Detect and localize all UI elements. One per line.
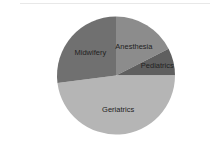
slice-label-midwifery: Midwifery: [74, 48, 106, 57]
slice-label-anesthesia: Anesthesia: [115, 42, 153, 51]
slice-label-geriatrics: Geriatrics: [102, 105, 134, 114]
pie-slices: [57, 17, 175, 135]
slice-label-pediatrics: Pediatrics: [141, 61, 174, 70]
pie-chart: AnesthesiaPediatricsGeriatricsMidwifery: [0, 0, 210, 146]
